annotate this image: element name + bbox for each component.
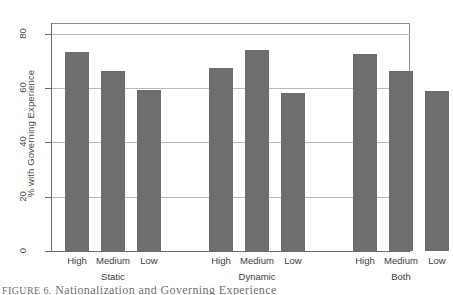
y-tick-mark — [45, 34, 51, 35]
x-category-label: Medium — [381, 255, 421, 266]
y-tick-mark — [45, 142, 51, 143]
bar — [65, 52, 89, 251]
figure-caption-text: FIGURE 6. Nationalization and Governing … — [2, 286, 277, 295]
x-group-label: Both — [323, 271, 453, 282]
bar — [425, 91, 449, 251]
x-group-label: Static — [35, 271, 191, 282]
plot-area — [51, 23, 410, 251]
bar — [245, 50, 269, 251]
x-category-label: Medium — [93, 255, 133, 266]
x-group-label: Dynamic — [179, 271, 335, 282]
bar — [101, 71, 125, 252]
caption-prefix: FIGURE 6. — [2, 286, 52, 295]
bar — [137, 90, 161, 251]
x-category-label: High — [201, 255, 241, 266]
y-tick-mark — [45, 251, 51, 252]
x-category-label: Medium — [237, 255, 277, 266]
x-category-label: High — [345, 255, 385, 266]
gridline — [51, 34, 410, 35]
y-axis-line — [51, 23, 52, 252]
x-category-label: High — [57, 255, 97, 266]
y-tick-label: 40 — [17, 122, 28, 162]
y-tick-label: 80 — [17, 13, 28, 53]
bar — [209, 68, 233, 251]
y-tick-label: 0 — [17, 231, 28, 271]
caption-body: Nationalization and Governing Experience — [55, 286, 277, 295]
x-category-label: Low — [417, 255, 453, 266]
bar — [281, 93, 305, 252]
y-tick-label: 20 — [17, 176, 28, 216]
y-tick-mark — [45, 88, 51, 89]
y-tick-label: 60 — [17, 68, 28, 108]
bar — [353, 54, 377, 251]
x-category-label: Low — [273, 255, 313, 266]
x-axis-line — [51, 251, 410, 252]
figure-caption: FIGURE 6. Nationalization and Governing … — [0, 286, 424, 295]
bar — [389, 71, 413, 251]
x-category-label: Low — [129, 255, 169, 266]
y-tick-mark — [45, 197, 51, 198]
